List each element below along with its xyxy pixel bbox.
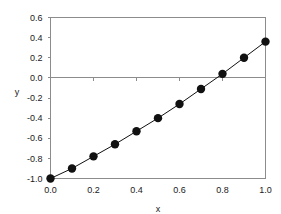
y-axis-tick-labels: 0.60.40.20.0-0.2-0.4-0.6-0.8-1.0 xyxy=(27,13,43,184)
y-tick-label: -0.2 xyxy=(27,93,43,103)
x-tick-label: 0.8 xyxy=(216,185,229,195)
data-point xyxy=(68,164,76,172)
x-axis-tick-labels: 0.00.20.40.60.81.0 xyxy=(44,185,272,195)
y-tick-label: 0.2 xyxy=(30,53,43,63)
data-point xyxy=(218,70,226,78)
y-tick-label: 0.0 xyxy=(30,73,43,83)
data-point xyxy=(154,114,162,122)
y-tick-label: -0.8 xyxy=(27,154,43,164)
y-tick-label: -0.6 xyxy=(27,133,43,143)
chart-figure: 0.60.40.20.0-0.2-0.4-0.6-0.8-1.0 0.00.20… xyxy=(0,0,281,214)
data-point xyxy=(261,37,269,45)
data-point xyxy=(197,85,205,93)
y-axis-title: y xyxy=(15,87,20,97)
x-tick-label: 0.2 xyxy=(87,185,100,195)
data-point xyxy=(240,54,248,62)
y-tick-label: -0.4 xyxy=(27,113,43,123)
data-point xyxy=(111,140,119,148)
plot-canvas: 0.60.40.20.0-0.2-0.4-0.6-0.8-1.0 0.00.20… xyxy=(0,0,281,214)
series-markers xyxy=(46,37,269,182)
y-tick-label: 0.4 xyxy=(30,33,43,43)
x-tick-label: 0.4 xyxy=(130,185,143,195)
series-line xyxy=(51,42,266,179)
data-point xyxy=(132,127,140,135)
plot-frame xyxy=(51,18,266,179)
x-tick-label: 0.0 xyxy=(44,185,57,195)
data-point xyxy=(89,152,97,160)
y-tick-label: 0.6 xyxy=(30,13,43,23)
y-tick-label: -1.0 xyxy=(27,174,43,184)
data-point xyxy=(175,100,183,108)
x-tick-label: 1.0 xyxy=(259,185,272,195)
data-point xyxy=(46,174,54,182)
x-axis-title: x xyxy=(156,204,161,214)
x-tick-label: 0.6 xyxy=(173,185,186,195)
